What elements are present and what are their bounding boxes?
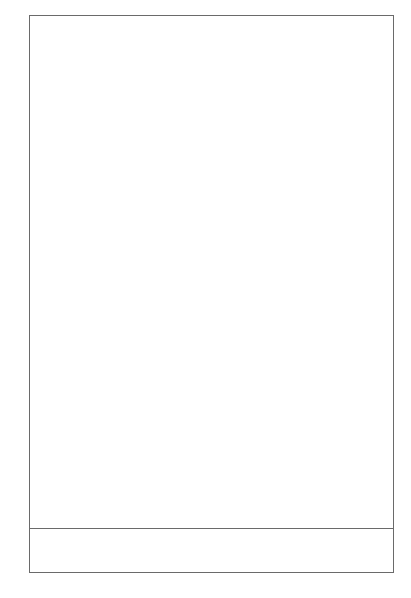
electrogram-page	[0, 0, 411, 598]
electrogram-traces	[0, 0, 411, 598]
